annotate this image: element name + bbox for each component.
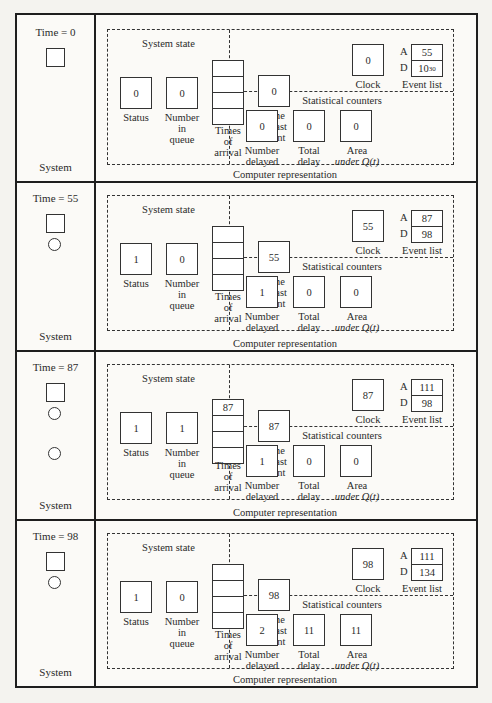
event-d-time: 134 (419, 567, 435, 578)
label-line: Number (236, 311, 288, 322)
system-state-title: System state (108, 204, 229, 215)
total-delay-cell: 0 (293, 276, 325, 308)
number-in-queue-value: 0 (179, 254, 184, 265)
system-column: Time = 55System (17, 181, 96, 350)
number-delayed-label: Numberdelayed (236, 649, 288, 671)
server-icon (46, 214, 65, 233)
label-line: delayed (236, 322, 288, 333)
time-label: Time = 98 (17, 530, 94, 542)
total-delay-value: 0 (306, 456, 311, 467)
system-state-title: System state (108, 542, 229, 553)
number-delayed-value: 0 (259, 121, 264, 132)
number-delayed-label: Numberdelayed (236, 311, 288, 333)
number-in-queue-label: Numberinqueue (156, 616, 208, 649)
computer-representation-label: Computer representation (94, 674, 476, 685)
times-of-arrival-stack (212, 564, 244, 629)
clock-value: 98 (363, 559, 374, 570)
status-value: 1 (133, 592, 138, 603)
event-d-value: 1030 (412, 61, 442, 76)
number-in-queue-value: 0 (179, 592, 184, 603)
area-under-q-label: Areaunder Q(t) (326, 311, 388, 333)
area-under-q-label: Areaunder Q(t) (326, 649, 388, 671)
status-label: Status (110, 447, 162, 458)
system-label: System (17, 161, 94, 173)
event-a-time: 111 (420, 382, 435, 393)
representation-dashed-box: System state1Status1Numberinqueue87Times… (107, 364, 454, 500)
event-list: 551030 (411, 44, 443, 77)
computer-representation-label: Computer representation (94, 507, 476, 518)
label-line: in (156, 123, 208, 134)
event-a-label: A (400, 46, 408, 57)
status-label: Status (110, 112, 162, 123)
clock-value: 87 (363, 390, 374, 401)
area-under-q-value: 0 (353, 121, 358, 132)
event-d-value: 98 (412, 396, 442, 411)
number-in-queue-cell: 0 (166, 581, 198, 613)
time-panel: Time = 55SystemSystem state1Status0Numbe… (17, 181, 476, 352)
event-d-label: D (400, 228, 408, 239)
event-a-label: A (400, 212, 408, 223)
event-a-value: 87 (412, 211, 442, 227)
system-label: System (17, 330, 94, 342)
clock-cell: 55 (352, 210, 384, 242)
arrival-slot (213, 613, 243, 628)
label-line: Area (326, 649, 388, 660)
times-of-arrival-stack (212, 226, 244, 291)
status-cell: 0 (120, 77, 152, 109)
label-line: under Q(t) (326, 491, 388, 502)
arrival-slot: 87 (213, 400, 243, 416)
event-a-value: 111 (412, 549, 442, 565)
representation-dashed-box: System state0Status0NumberinqueueTimesof… (107, 29, 454, 165)
clock-cell: 0 (352, 44, 384, 76)
event-d-value: 98 (412, 227, 442, 242)
time-panel: Time = 0SystemSystem state0Status0Number… (17, 15, 476, 183)
label-line: Number (156, 278, 208, 289)
number-in-queue-label: Numberinqueue (156, 112, 208, 145)
area-under-q-cell: 0 (340, 276, 372, 308)
times-of-arrival-stack (212, 60, 244, 125)
event-a-label: A (400, 550, 408, 561)
arrival-slot (213, 227, 243, 243)
label-line: under Q(t) (326, 660, 388, 671)
statistical-counters-title: Statistical counters (229, 261, 455, 272)
total-delay-cell: 11 (293, 614, 325, 646)
time-label: Time = 87 (17, 361, 94, 373)
area-under-q-cell: 0 (340, 445, 372, 477)
event-a-label: A (400, 381, 408, 392)
arrival-slot (213, 243, 243, 259)
area-under-q-value: 0 (353, 456, 358, 467)
event-d-value: 134 (412, 565, 442, 580)
number-delayed-cell: 1 (246, 445, 278, 477)
customer-in-service-icon (48, 407, 61, 420)
clock-value: 0 (365, 55, 370, 66)
label-line: Times (204, 291, 252, 302)
computer-representation: System state1Status0NumberinqueueTimesof… (94, 519, 476, 686)
label-line: Area (326, 480, 388, 491)
area-under-q-label: Areaunder Q(t) (326, 145, 388, 167)
label-line: queue (156, 300, 208, 311)
clock-label: Clock (344, 245, 392, 256)
system-state-title: System state (108, 373, 229, 384)
status-label: Status (110, 616, 162, 627)
clock-cell: 87 (352, 379, 384, 411)
total-delay-value: 0 (306, 287, 311, 298)
number-delayed-label: Numberdelayed (236, 145, 288, 167)
arrival-slot (213, 77, 243, 93)
label-line: Times (204, 629, 252, 640)
arrival-slot (213, 61, 243, 77)
event-d-label: D (400, 62, 408, 73)
label-line: delayed (236, 156, 288, 167)
time-label: Time = 55 (17, 192, 94, 204)
number-in-queue-value: 0 (179, 88, 184, 99)
label-line: under Q(t) (326, 322, 388, 333)
event-list-label: Event list (390, 414, 454, 425)
number-in-queue-value: 1 (179, 423, 184, 434)
label-line: Number (156, 112, 208, 123)
number-delayed-cell: 0 (246, 110, 278, 142)
system-column: Time = 0System (17, 15, 96, 181)
server-icon (46, 48, 65, 67)
event-a-value: 111 (412, 380, 442, 396)
status-value: 1 (133, 254, 138, 265)
label-line: in (156, 289, 208, 300)
computer-representation-label: Computer representation (94, 169, 476, 180)
